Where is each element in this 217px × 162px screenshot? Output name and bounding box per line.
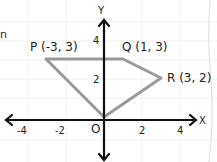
point-label-P: P (-3, 3) — [30, 40, 78, 54]
point-label-Q: Q (1, 3) — [122, 40, 168, 54]
stray-mark: n — [0, 28, 7, 41]
x-tick-2: 2 — [139, 125, 145, 136]
x-axis-label: X — [199, 115, 206, 126]
coordinate-plane: Y X O -4 -2 2 4 2 4 P (-3, 3) Q (1, 3) R… — [0, 0, 217, 162]
x-tick-neg4: -4 — [17, 125, 27, 136]
y-axis-label: Y — [97, 5, 105, 16]
y-tick-4: 4 — [93, 35, 99, 46]
y-tick-2: 2 — [93, 74, 99, 85]
origin-label: O — [91, 122, 100, 136]
x-axis — [6, 115, 196, 125]
x-tick-4: 4 — [177, 125, 183, 136]
x-tick-neg2: -2 — [55, 125, 65, 136]
point-label-R: R (3, 2) — [167, 71, 211, 85]
